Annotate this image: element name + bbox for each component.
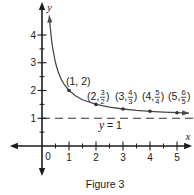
y-axis-up-arrow-icon	[39, 2, 45, 10]
data-point	[121, 107, 125, 111]
asymptote-label: y = 1	[98, 119, 122, 132]
function-plot: xy1234501234(1, 2)(2,32)(3,43)(4,54)(5,6…	[0, 0, 194, 195]
point-label: (3,43)	[115, 88, 137, 106]
y-tick-label: 2	[30, 85, 36, 96]
point-label-prefix: (4,	[142, 90, 154, 102]
data-point	[67, 89, 71, 93]
x-tick-label: 2	[93, 152, 99, 163]
y-tick-label: 4	[30, 30, 36, 41]
fraction-numerator: 3	[100, 88, 104, 97]
point-label-text: (1, 2)	[66, 75, 91, 87]
figure-caption: Figure 3	[0, 178, 194, 190]
point-label-prefix: (2,	[87, 90, 99, 102]
x-axis-left-arrow-icon	[10, 143, 18, 149]
data-point	[94, 103, 98, 107]
point-label-suffix: )	[187, 90, 191, 102]
x-tick-label: 1	[66, 152, 72, 163]
y-axis-label: y	[46, 1, 52, 13]
fraction-denominator: 5	[181, 97, 185, 106]
y-axis-down-arrow-icon	[39, 168, 45, 176]
point-label-suffix: )	[134, 90, 138, 102]
point-label-suffix: )	[106, 90, 110, 102]
origin-label: 0	[45, 151, 51, 162]
point-label: (4,54)	[142, 88, 164, 106]
point-label: (2,32)	[87, 88, 109, 106]
x-axis-right-arrow-icon	[184, 143, 192, 149]
point-label-prefix: (5,	[168, 90, 180, 102]
x-tick-label: 3	[120, 152, 126, 163]
asymptote-label-value: = 1	[104, 119, 122, 131]
fraction-numerator: 6	[181, 88, 185, 97]
fraction-denominator: 3	[128, 97, 132, 106]
x-tick-label: 4	[147, 152, 153, 163]
fraction-numerator: 5	[155, 88, 159, 97]
point-label-suffix: )	[161, 90, 165, 102]
data-point	[175, 111, 179, 115]
figure: xy1234501234(1, 2)(2,32)(3,43)(4,54)(5,6…	[0, 0, 194, 195]
y-tick-label: 1	[30, 113, 36, 124]
fraction-denominator: 2	[100, 97, 104, 106]
point-label: (5,65)	[168, 88, 190, 106]
point-label-prefix: (3,	[115, 90, 127, 102]
data-point	[148, 110, 152, 114]
x-axis-label: x	[185, 130, 191, 142]
y-tick-label: 3	[30, 57, 36, 68]
fraction-numerator: 4	[128, 88, 132, 97]
point-label: (1, 2)	[66, 75, 91, 87]
x-tick-label: 5	[174, 152, 180, 163]
fraction-denominator: 4	[155, 97, 159, 106]
curve-right-arrow-icon	[182, 110, 189, 115]
